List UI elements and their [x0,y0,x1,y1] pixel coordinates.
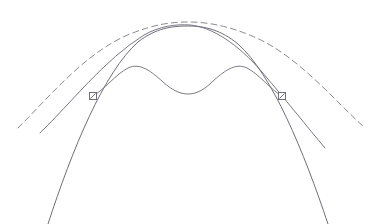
left-endpoint-marker[interactable] [90,93,97,100]
right-endpoint-marker[interactable] [279,93,286,100]
figure-canvas [0,0,375,224]
plot-background [0,0,375,224]
curve-plot-svg [0,0,375,224]
